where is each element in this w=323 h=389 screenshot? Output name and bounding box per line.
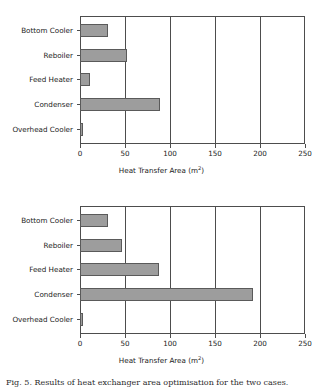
- bar-series-top: [80, 16, 305, 144]
- y-axis-label: Bottom Cooler: [0, 214, 77, 227]
- y-axis-tick: [77, 269, 80, 270]
- bar-row: [80, 49, 305, 62]
- y-axis-label: Reboiler: [0, 49, 77, 62]
- x-axis-top: 050100150200250: [80, 144, 305, 162]
- x-axis-title-bottom: Heat Transfer Area (m2): [0, 355, 323, 365]
- x-axis-tick: [80, 144, 81, 148]
- x-axis-bottom: 050100150200250: [80, 334, 305, 352]
- bar-row: [80, 263, 305, 276]
- x-axis-tick: [80, 334, 81, 338]
- bar: [80, 239, 122, 252]
- y-axis-labels-top: Bottom Cooler Reboiler Feed Heater Conde…: [0, 16, 77, 144]
- x-axis-tick: [125, 334, 126, 338]
- bar: [80, 214, 108, 227]
- y-axis-tick: [77, 129, 80, 130]
- y-axis-label: Feed Heater: [0, 263, 77, 276]
- y-axis-label: Condenser: [0, 98, 77, 111]
- y-axis-tick: [77, 30, 80, 31]
- bar-row: [80, 98, 305, 111]
- y-axis-tick: [77, 319, 80, 320]
- x-axis-tick-label: 0: [78, 339, 83, 348]
- x-axis-tick-label: 0: [78, 149, 83, 158]
- x-axis-tick-label: 100: [163, 149, 177, 158]
- bar: [80, 263, 159, 276]
- y-axis-tick: [77, 79, 80, 80]
- x-axis-tick: [125, 144, 126, 148]
- x-axis-title-top: Heat Transfer Area (m2): [0, 165, 323, 175]
- chart-panel-bottom: Bottom Cooler Reboiler Feed Heater Conde…: [0, 190, 323, 375]
- bar: [80, 123, 83, 136]
- x-axis-tick-label: 150: [208, 149, 222, 158]
- x-axis-title-text: Heat Transfer Area (m: [119, 356, 198, 365]
- bar: [80, 49, 127, 62]
- x-axis-tick-label: 50: [120, 149, 129, 158]
- bar-series-bottom: [80, 206, 305, 334]
- x-axis-tick: [305, 334, 306, 338]
- bar-row: [80, 24, 305, 37]
- bar: [80, 73, 90, 86]
- bar-row: [80, 214, 305, 227]
- bar-row: [80, 313, 305, 326]
- x-axis-tick-label: 100: [163, 339, 177, 348]
- y-axis-tick: [77, 220, 80, 221]
- x-axis-tick: [170, 334, 171, 338]
- bar: [80, 24, 108, 37]
- x-axis-tick-label: 150: [208, 339, 222, 348]
- plot-area-bottom: [80, 206, 305, 334]
- x-axis-tick-label: 250: [298, 339, 312, 348]
- bar-row: [80, 239, 305, 252]
- y-axis-tick: [77, 55, 80, 56]
- figure-caption: Fig. 5. Results of heat exchanger area o…: [6, 378, 317, 389]
- y-axis-label: Bottom Cooler: [0, 24, 77, 37]
- x-axis-tick-label: 50: [120, 339, 129, 348]
- x-axis-tick: [215, 144, 216, 148]
- plot-area-top: [80, 16, 305, 144]
- bar-row: [80, 288, 305, 301]
- y-axis-tick: [77, 104, 80, 105]
- x-axis-title-close: ): [201, 356, 204, 365]
- x-axis-tick: [260, 334, 261, 338]
- x-axis-tick-label: 250: [298, 149, 312, 158]
- x-axis-tick-label: 200: [253, 339, 267, 348]
- bar: [80, 313, 83, 326]
- x-axis-tick: [215, 334, 216, 338]
- y-axis-label: Condenser: [0, 288, 77, 301]
- x-axis-tick: [170, 144, 171, 148]
- y-axis-label: Overhead Cooler: [0, 123, 77, 136]
- bar: [80, 288, 253, 301]
- y-axis-tick: [77, 245, 80, 246]
- figure-two-bar-charts: Bottom Cooler Reboiler Feed Heater Conde…: [0, 0, 323, 389]
- bar: [80, 98, 160, 111]
- y-axis-label: Overhead Cooler: [0, 313, 77, 326]
- x-axis-tick: [305, 144, 306, 148]
- bar-row: [80, 73, 305, 86]
- y-axis-label: Feed Heater: [0, 73, 77, 86]
- bar-row: [80, 123, 305, 136]
- y-axis-tick: [77, 294, 80, 295]
- x-axis-tick: [260, 144, 261, 148]
- x-axis-tick-label: 200: [253, 149, 267, 158]
- y-axis-labels-bottom: Bottom Cooler Reboiler Feed Heater Conde…: [0, 206, 77, 334]
- chart-panel-top: Bottom Cooler Reboiler Feed Heater Conde…: [0, 2, 323, 187]
- y-axis-label: Reboiler: [0, 239, 77, 252]
- x-axis-title-close: ): [201, 166, 204, 175]
- x-axis-title-text: Heat Transfer Area (m: [119, 166, 198, 175]
